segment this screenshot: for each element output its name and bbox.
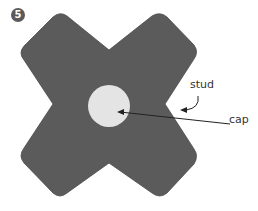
stud-label: stud xyxy=(190,78,214,91)
stud-pointer-curve xyxy=(186,96,198,110)
cap-circle xyxy=(88,85,130,127)
cap-label: cap xyxy=(229,113,249,126)
cross-shape-diagram xyxy=(0,0,258,211)
stud-arrowhead xyxy=(180,107,187,113)
